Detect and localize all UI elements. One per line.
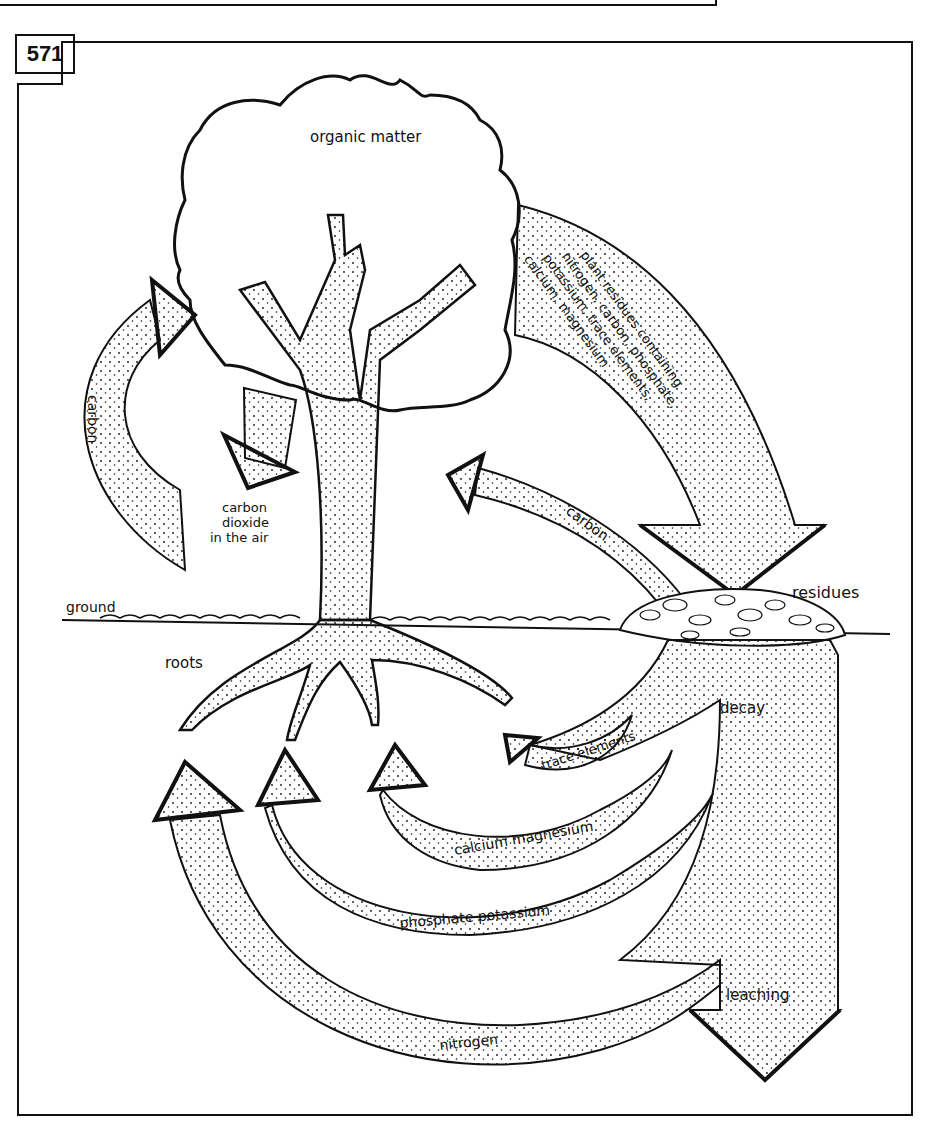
nitrogen-arrowhead [155,762,240,820]
tree-roots [180,620,512,740]
co2-label-3: in the air [210,530,269,545]
co2-label-2: dioxide [222,515,269,530]
decay-label: decay [720,699,765,717]
organic-matter-label: organic matter [310,128,422,146]
roots-label: roots [165,654,203,672]
carbon-left-label: carbon [85,395,101,443]
leaching-label: leaching [726,986,790,1004]
residues-label: residues [792,583,859,602]
nutrient-cycle-diagram: organic matter plant residues containing… [0,0,932,1135]
decay-region [530,640,840,1080]
phosphate-potassium-arrowhead [258,750,318,805]
co2-label-1: carbon [222,500,267,515]
ground-label: ground [66,599,116,615]
calcium-magnesium-arrowhead [370,745,425,790]
calcium-magnesium-arrow [380,750,672,870]
